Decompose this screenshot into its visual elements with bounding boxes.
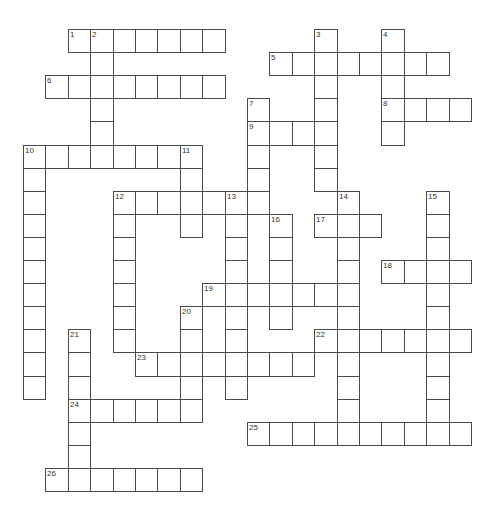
crossword-cell-r3-c17[interactable] (404, 98, 427, 122)
crossword-cell-r9-c18[interactable] (426, 237, 450, 261)
crossword-cell-r12-c14[interactable] (337, 306, 360, 330)
crossword-cell-r9-c11[interactable] (269, 237, 293, 261)
crossword-cell-r15-c2[interactable] (68, 376, 91, 400)
crossword-cell-r16-c4[interactable] (113, 399, 136, 423)
crossword-cell-r3-c13[interactable] (314, 98, 338, 122)
crossword-cell-r4-c3[interactable] (90, 121, 114, 146)
crossword-cell-r0-c8[interactable] (202, 29, 226, 53)
crossword-cell-r15-c18[interactable] (426, 376, 450, 400)
crossword-cell-r8-c14[interactable] (337, 214, 360, 238)
crossword-cell-r1-c16[interactable] (381, 52, 405, 76)
crossword-cell-r16-c6[interactable] (157, 399, 181, 423)
crossword-cell-r2-c13[interactable] (314, 75, 338, 99)
crossword-cell-r15-c14[interactable] (337, 376, 360, 400)
crossword-cell-r7-c6[interactable] (157, 191, 181, 215)
crossword-cell-r2-c2[interactable] (68, 75, 91, 99)
crossword-cell-r19-c1[interactable]: 26 (45, 468, 69, 492)
crossword-cell-r17-c13[interactable] (314, 422, 338, 446)
crossword-cell-r1-c14[interactable] (337, 52, 360, 76)
crossword-cell-r11-c10[interactable] (247, 283, 270, 307)
crossword-cell-r1-c17[interactable] (404, 52, 427, 76)
crossword-cell-r4-c10[interactable]: 9 (247, 121, 270, 146)
crossword-cell-r0-c2[interactable]: 1 (68, 29, 91, 53)
crossword-cell-r13-c0[interactable] (23, 329, 46, 353)
crossword-cell-r7-c0[interactable] (23, 191, 46, 215)
crossword-cell-r8-c18[interactable] (426, 214, 450, 238)
crossword-cell-r16-c7[interactable] (180, 399, 203, 423)
crossword-cell-r9-c9[interactable] (225, 237, 248, 261)
crossword-cell-r13-c18[interactable] (426, 329, 450, 353)
crossword-cell-r10-c9[interactable] (225, 260, 248, 284)
crossword-cell-r7-c18[interactable]: 15 (426, 191, 450, 215)
crossword-cell-r13-c9[interactable] (225, 329, 248, 353)
crossword-cell-r14-c5[interactable]: 23 (135, 352, 158, 377)
crossword-cell-r11-c18[interactable] (426, 283, 450, 307)
crossword-cell-r2-c16[interactable] (381, 75, 405, 99)
crossword-cell-r9-c0[interactable] (23, 237, 46, 261)
crossword-cell-r5-c7[interactable]: 11 (180, 145, 203, 169)
crossword-cell-r5-c5[interactable] (135, 145, 158, 169)
crossword-cell-r5-c3[interactable] (90, 145, 114, 169)
crossword-cell-r16-c18[interactable] (426, 399, 450, 423)
crossword-cell-r8-c7[interactable] (180, 214, 203, 238)
crossword-cell-r14-c0[interactable] (23, 352, 46, 377)
crossword-cell-r8-c9[interactable] (225, 214, 248, 238)
crossword-cell-r14-c2[interactable] (68, 352, 91, 377)
crossword-cell-r3-c16[interactable]: 8 (381, 98, 405, 122)
crossword-cell-r7-c5[interactable] (135, 191, 158, 215)
crossword-cell-r17-c10[interactable]: 25 (247, 422, 270, 446)
crossword-cell-r2-c1[interactable]: 6 (45, 75, 69, 99)
crossword-cell-r17-c16[interactable] (381, 422, 405, 446)
crossword-cell-r8-c15[interactable] (359, 214, 382, 238)
crossword-cell-r10-c16[interactable]: 18 (381, 260, 405, 284)
crossword-cell-r10-c11[interactable] (269, 260, 293, 284)
crossword-cell-r12-c7[interactable]: 20 (180, 306, 203, 330)
crossword-cell-r14-c18[interactable] (426, 352, 450, 377)
crossword-cell-r13-c4[interactable] (113, 329, 136, 353)
crossword-cell-r6-c7[interactable] (180, 168, 203, 192)
crossword-cell-r4-c12[interactable] (292, 121, 315, 146)
crossword-cell-r1-c3[interactable] (90, 52, 114, 76)
crossword-cell-r15-c0[interactable] (23, 376, 46, 400)
crossword-cell-r12-c9[interactable] (225, 306, 248, 330)
crossword-cell-r17-c17[interactable] (404, 422, 427, 446)
crossword-cell-r13-c19[interactable] (449, 329, 472, 353)
crossword-cell-r15-c9[interactable] (225, 376, 248, 400)
crossword-cell-r1-c13[interactable] (314, 52, 338, 76)
crossword-cell-r5-c13[interactable] (314, 145, 338, 169)
crossword-cell-r10-c14[interactable] (337, 260, 360, 284)
crossword-cell-r6-c0[interactable] (23, 168, 46, 192)
crossword-cell-r12-c0[interactable] (23, 306, 46, 330)
crossword-cell-r14-c6[interactable] (157, 352, 181, 377)
crossword-cell-r12-c4[interactable] (113, 306, 136, 330)
crossword-cell-r7-c14[interactable]: 14 (337, 191, 360, 215)
crossword-cell-r14-c10[interactable] (247, 352, 270, 377)
crossword-cell-r7-c7[interactable] (180, 191, 203, 215)
crossword-cell-r19-c4[interactable] (113, 468, 136, 492)
crossword-cell-r19-c3[interactable] (90, 468, 114, 492)
crossword-cell-r17-c12[interactable] (292, 422, 315, 446)
crossword-cell-r8-c11[interactable]: 16 (269, 214, 293, 238)
crossword-cell-r2-c4[interactable] (113, 75, 136, 99)
crossword-cell-r8-c13[interactable]: 17 (314, 214, 338, 238)
crossword-cell-r3-c19[interactable] (449, 98, 472, 122)
crossword-cell-r12-c18[interactable] (426, 306, 450, 330)
crossword-cell-r0-c5[interactable] (135, 29, 158, 53)
crossword-cell-r16-c2[interactable]: 24 (68, 399, 91, 423)
crossword-cell-r5-c10[interactable] (247, 145, 270, 169)
crossword-cell-r2-c7[interactable] (180, 75, 203, 99)
crossword-cell-r8-c0[interactable] (23, 214, 46, 238)
crossword-cell-r14-c14[interactable] (337, 352, 360, 377)
crossword-cell-r11-c13[interactable] (314, 283, 338, 307)
crossword-cell-r13-c16[interactable] (381, 329, 405, 353)
crossword-cell-r2-c3[interactable] (90, 75, 114, 99)
crossword-cell-r7-c8[interactable] (202, 191, 226, 215)
crossword-cell-r10-c0[interactable] (23, 260, 46, 284)
crossword-cell-r3-c18[interactable] (426, 98, 450, 122)
crossword-cell-r17-c2[interactable] (68, 422, 91, 446)
crossword-cell-r4-c16[interactable] (381, 121, 405, 146)
crossword-cell-r0-c6[interactable] (157, 29, 181, 53)
crossword-cell-r14-c11[interactable] (269, 352, 293, 377)
crossword-cell-r13-c14[interactable] (337, 329, 360, 353)
crossword-cell-r16-c14[interactable] (337, 399, 360, 423)
